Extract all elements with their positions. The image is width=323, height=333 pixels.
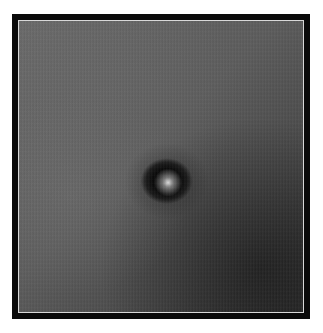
film-grain-texture <box>19 21 303 312</box>
image-frame <box>12 14 310 319</box>
photo-plate <box>18 20 304 313</box>
